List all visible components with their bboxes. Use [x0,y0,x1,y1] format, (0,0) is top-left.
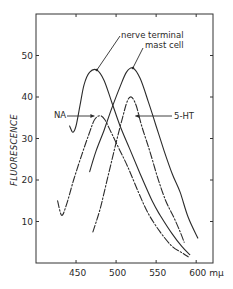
annotation-na-arrowhead [90,114,94,118]
axis-ticks [36,14,213,263]
x-tick-label: 450 [69,268,86,278]
curve-mast-cell [90,68,198,238]
annotation-5-ht-arrowhead [135,114,139,118]
plot-frame [36,14,213,263]
y-tick-label: 10 [22,217,34,227]
annotation-nerve-terminal-label: nerve terminal [121,30,184,40]
y-tick-label: 40 [22,92,34,102]
annotation-nerve-terminal-leader [97,36,120,70]
y-tick-label: 30 [22,134,34,144]
fluorescence-chart: 450500550600 mμ1020304050 FLUORESCENCE n… [0,0,233,289]
x-tick-label: 550 [149,268,166,278]
tick-labels: 450500550600 mμ1020304050 [22,51,224,279]
annotation-mast-cell-label: mast cell [145,40,184,50]
annotation-5-ht-label: 5-HT [174,111,195,121]
y-tick-label: 50 [22,51,34,61]
annotation-nerve-terminal-pointer [96,69,99,72]
x-tick-label: 600 mμ [189,268,224,278]
x-tick-label: 500 [109,268,126,278]
annotation-na-label: NA [54,110,66,120]
curves [58,68,198,257]
y-tick-label: 20 [22,175,34,185]
curve-na [58,116,189,257]
annotation-mast-cell-pointer [132,67,135,70]
y-axis-title: FLUORESCENCE [9,114,19,186]
annotation-mast-cell-leader [133,48,143,68]
